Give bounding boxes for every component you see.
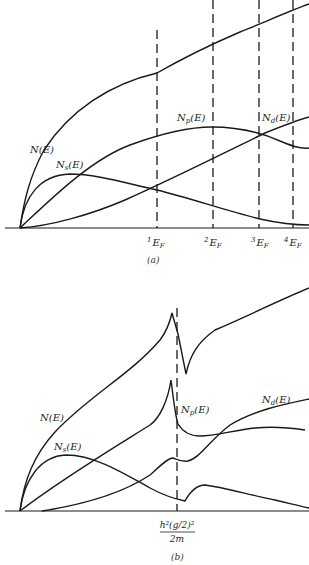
total-dos-label-b: N(E) bbox=[39, 412, 64, 423]
panel-a: N(E) Ns(E) Np(E) Nd(E) 1EF 2EF 3EF 4EF (… bbox=[5, 0, 309, 265]
panel-a-caption: (a) bbox=[147, 255, 160, 265]
zone-boundary-numerator: h²(g/2)² bbox=[160, 520, 195, 530]
fermi-level-2-label: 2EF bbox=[203, 236, 223, 250]
panel-b-caption: (b) bbox=[171, 552, 184, 562]
p-band-label-b: Np(E) bbox=[180, 404, 209, 417]
total-dos-label-a: N(E) bbox=[29, 144, 54, 155]
d-band-label-b: Nd(E) bbox=[261, 394, 290, 407]
panel-b: N(E) Ns(E) Np(E) Nd(E) h²(g/2)² 2m (b) bbox=[5, 288, 309, 562]
p-band-label-a: Np(E) bbox=[176, 112, 205, 125]
d-band-label-a: Nd(E) bbox=[261, 112, 290, 125]
s-band-label-b: Ns(E) bbox=[53, 441, 82, 454]
s-band-dos-curve-b bbox=[20, 455, 309, 511]
p-band-dos-curve-a bbox=[20, 127, 309, 228]
fermi-level-3-label: 3EF bbox=[251, 236, 270, 250]
zone-boundary-energy-label: h²(g/2)² 2m bbox=[160, 520, 195, 544]
zone-boundary-denominator: 2m bbox=[169, 534, 184, 544]
fermi-level-1-label: 1EF bbox=[147, 236, 166, 250]
density-of-states-diagram: N(E) Ns(E) Np(E) Nd(E) 1EF 2EF 3EF 4EF (… bbox=[0, 0, 309, 565]
fermi-level-4-label: 4EF bbox=[283, 236, 303, 250]
s-band-label-a: Ns(E) bbox=[55, 159, 84, 172]
